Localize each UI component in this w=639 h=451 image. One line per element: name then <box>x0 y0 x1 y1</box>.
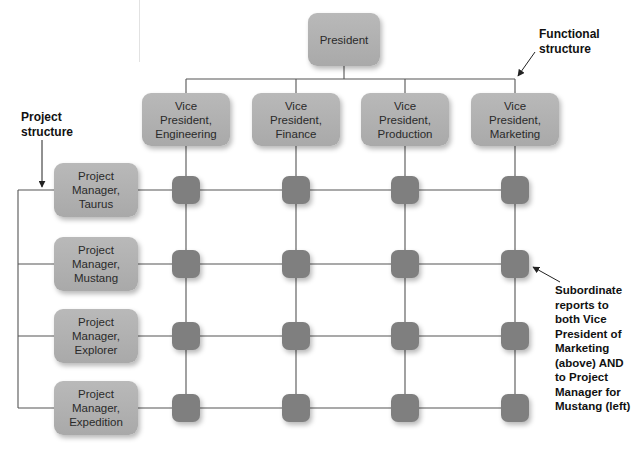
grid-node <box>282 394 310 422</box>
grid-node <box>172 176 200 204</box>
grid-node <box>172 394 200 422</box>
project-structure-label: Project structure <box>21 110 73 140</box>
grid-node <box>501 176 529 204</box>
grid-node-highlighted-subordinate <box>501 250 529 278</box>
grid-node <box>391 394 419 422</box>
grid-node <box>391 322 419 350</box>
grid-node <box>172 322 200 350</box>
subordinate-arrow <box>533 267 560 282</box>
functional-structure-label: Functional structure <box>539 27 600 57</box>
vp-production-box: Vice President, Production <box>361 93 449 146</box>
matrix-org-chart: President Vice President, Engineering Vi… <box>0 0 639 451</box>
vp-marketing-box: Vice President, Marketing <box>471 93 559 146</box>
grid-node <box>282 250 310 278</box>
grid-node <box>282 176 310 204</box>
grid-node <box>391 250 419 278</box>
functional-arrow <box>518 52 535 76</box>
pm-expedition-box: Project Manager, Expedition <box>54 381 138 435</box>
grid-node <box>501 394 529 422</box>
president-box: President <box>308 13 380 66</box>
pm-mustang-box: Project Manager, Mustang <box>54 237 138 291</box>
pm-taurus-box: Project Manager, Taurus <box>54 163 138 217</box>
grid-node <box>391 176 419 204</box>
vp-engineering-box: Vice President, Engineering <box>142 93 230 146</box>
grid-node <box>172 250 200 278</box>
pm-explorer-box: Project Manager, Explorer <box>54 309 138 363</box>
grid-node <box>501 322 529 350</box>
grid-node <box>282 322 310 350</box>
vp-finance-box: Vice President, Finance <box>252 93 340 146</box>
subordinate-annotation: Subordinate reports to both Vice Preside… <box>555 283 630 414</box>
